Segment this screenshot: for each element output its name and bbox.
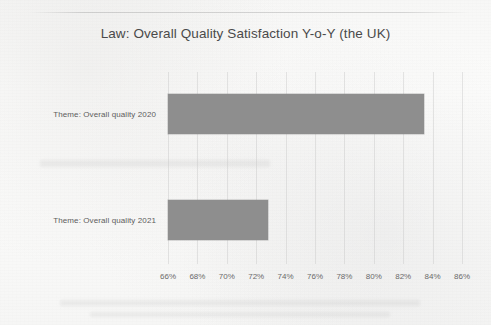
bar[interactable] (168, 200, 268, 240)
category-label: Theme: Overall quality 2021 (53, 216, 156, 225)
x-tick-label: 78% (336, 272, 352, 281)
x-tick-label: 82% (395, 272, 411, 281)
plot-area: Theme: Overall quality 2020Theme: Overal… (168, 72, 462, 264)
x-tick-label: 66% (160, 272, 176, 281)
x-tick-label: 76% (307, 272, 323, 281)
bar-row: Theme: Overall quality 2020 (168, 94, 462, 134)
bar-chart: Law: Overall Quality Satisfaction Y-o-Y … (0, 0, 491, 325)
x-tick-label: 80% (366, 272, 382, 281)
gridline (462, 72, 463, 264)
x-tick-label: 74% (278, 272, 294, 281)
category-label: Theme: Overall quality 2020 (53, 110, 156, 119)
bar[interactable] (168, 94, 424, 134)
x-axis-tick-labels: 66%68%70%72%74%76%78%80%82%84%86% (168, 272, 462, 286)
x-tick-label: 72% (248, 272, 264, 281)
x-tick-label: 70% (219, 272, 235, 281)
x-tick-label: 84% (425, 272, 441, 281)
bar-row: Theme: Overall quality 2021 (168, 200, 462, 240)
chart-title: Law: Overall Quality Satisfaction Y-o-Y … (0, 26, 491, 41)
x-tick-label: 68% (189, 272, 205, 281)
x-tick-label: 86% (454, 272, 470, 281)
